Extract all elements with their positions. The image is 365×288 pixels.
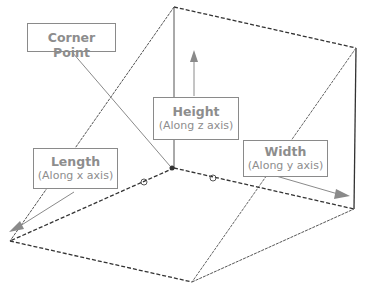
edge-top-back bbox=[174, 7, 356, 48]
width-subtitle: (Along y axis) bbox=[244, 159, 327, 173]
length-title: Length bbox=[34, 154, 117, 169]
length-subtitle: (Along x axis) bbox=[34, 169, 117, 183]
corner-point-title: Corner Point bbox=[28, 30, 115, 60]
arrow-width-icon bbox=[334, 189, 350, 199]
arrow-length-icon bbox=[9, 221, 24, 232]
leader-length bbox=[20, 192, 74, 226]
corner-point-icon bbox=[170, 166, 175, 171]
label-length: Length (Along x axis) bbox=[33, 148, 118, 189]
arrow-height-icon bbox=[190, 50, 198, 62]
edge-vertical-right bbox=[354, 48, 356, 209]
edge-bottom-right bbox=[192, 209, 354, 282]
width-title: Width bbox=[244, 144, 327, 159]
edge-bottom-left bbox=[10, 241, 192, 282]
height-title: Height bbox=[154, 104, 238, 119]
label-width: Width (Along y axis) bbox=[243, 140, 328, 177]
label-corner-point: Corner Point bbox=[27, 23, 116, 52]
height-subtitle: (Along z axis) bbox=[154, 119, 238, 133]
label-height: Height (Along z axis) bbox=[153, 97, 239, 140]
leader-width bbox=[276, 176, 338, 194]
